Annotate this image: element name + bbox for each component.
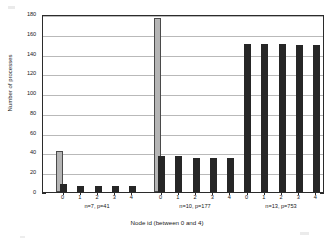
bar [193,158,200,192]
x-tick-label: 3 [107,194,121,201]
gridline [43,36,323,37]
y-tick-label: 0 [6,190,36,196]
x-tick-mark [229,192,230,195]
x-tick-mark [63,192,64,195]
x-tick-mark [264,192,265,195]
bar [129,186,136,192]
bar [95,186,102,192]
group-label: n=7, p=41 [52,203,142,210]
x-tick-mark [281,192,282,195]
group-label: n=13, p=753 [236,203,326,210]
x-tick-mark [131,192,132,195]
x-axis-title: Node id (between 0 and 4) [0,219,334,226]
x-tick-mark [97,192,98,195]
x-tick-mark [298,192,299,195]
x-tick-label: 1 [73,194,87,201]
x-tick-label: 0 [154,194,168,201]
y-tick-label: 80 [6,111,36,117]
x-tick-mark [114,192,115,195]
x-tick-label: 2 [188,194,202,201]
y-tick-label: 40 [6,150,36,156]
x-tick-label: 1 [257,194,271,201]
x-tick-label: 0 [240,194,254,201]
x-tick-mark [80,192,81,195]
bar [60,184,67,192]
y-tick-label: 100 [6,91,36,97]
chart-figure: Number of processes 02040608010012014016… [0,0,334,244]
y-tick-label: 140 [6,52,36,58]
bar [158,156,165,192]
scan-artifact [20,236,25,238]
group-label: n=10, p=177 [150,203,240,210]
x-tick-mark [247,192,248,195]
x-tick-mark [178,192,179,195]
x-tick-label: 0 [56,194,70,201]
scan-artifact [8,6,15,9]
bar [261,44,268,192]
y-tick-label: 20 [6,170,36,176]
plot-area [42,15,324,193]
x-tick-label: 1 [171,194,185,201]
gridline [43,16,323,17]
bar [77,186,84,192]
scan-artifact [300,232,309,235]
x-tick-mark [195,192,196,195]
x-tick-label: 4 [222,194,236,201]
y-tick-label: 60 [6,131,36,137]
x-tick-mark [212,192,213,195]
bar [227,158,234,192]
x-tick-label: 4 [308,194,322,201]
x-tick-label: 3 [291,194,305,201]
y-axis-title: Number of processes [7,28,13,138]
x-tick-label: 4 [124,194,138,201]
x-tick-label: 2 [274,194,288,201]
y-tick-label: 180 [6,12,36,18]
y-tick-mark [42,193,46,194]
y-tick-label: 160 [6,32,36,38]
bar [244,44,251,192]
bar [296,45,303,192]
bar [279,44,286,192]
bar [313,45,320,192]
x-tick-label: 3 [205,194,219,201]
x-tick-mark [161,192,162,195]
x-tick-label: 2 [90,194,104,201]
bar [175,156,182,192]
y-tick-label: 120 [6,71,36,77]
bar [112,186,119,192]
bar [210,158,217,192]
x-tick-mark [315,192,316,195]
